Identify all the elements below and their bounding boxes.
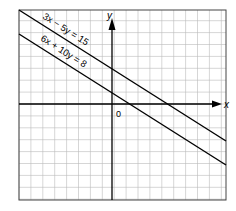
- y-label: y: [106, 10, 113, 21]
- graph: x y 0 3x − 5y = 15 6x + 10y = 8: [0, 0, 236, 211]
- x-arrow-icon: [212, 101, 222, 108]
- x-label: x: [223, 99, 230, 110]
- line-2: [19, 34, 226, 165]
- line-1: [19, 10, 226, 141]
- origin-label: 0: [116, 109, 121, 119]
